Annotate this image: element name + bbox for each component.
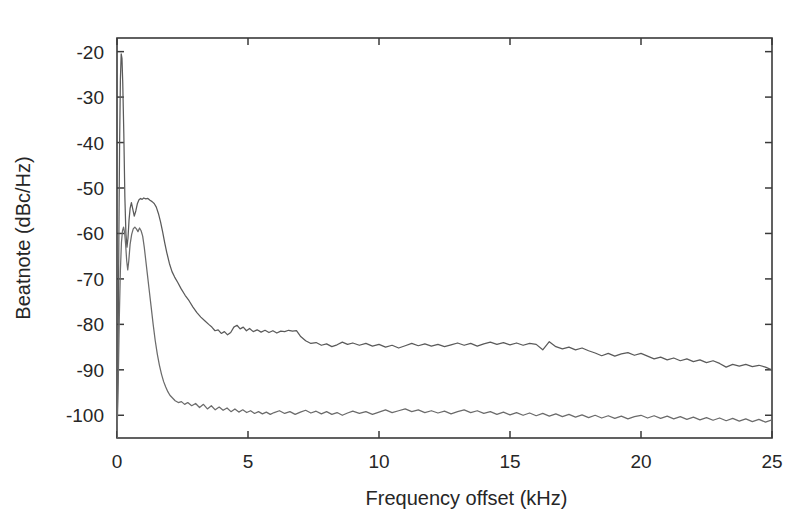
phase-noise-chart-figure: 0510152025-20-30-40-50-60-70-80-90-100Fr… xyxy=(0,0,802,526)
x-tick-label: 20 xyxy=(630,451,651,472)
y-tick-label: -90 xyxy=(77,360,104,381)
y-tick-label: -60 xyxy=(77,223,104,244)
x-tick-label: 0 xyxy=(112,451,123,472)
x-tick-label: 25 xyxy=(761,451,782,472)
x-tick-label: 5 xyxy=(243,451,254,472)
y-tick-label: -70 xyxy=(77,269,104,290)
y-tick-label: -100 xyxy=(66,405,104,426)
plot-background xyxy=(117,38,772,438)
y-tick-label: -30 xyxy=(77,87,104,108)
x-axis-title: Frequency offset (kHz) xyxy=(366,487,568,509)
x-tick-labels: 0510152025 xyxy=(112,451,783,472)
y-tick-labels: -20-30-40-50-60-70-80-90-100 xyxy=(66,42,104,427)
y-tick-label: -50 xyxy=(77,178,104,199)
y-tick-label: -40 xyxy=(77,133,104,154)
x-tick-label: 10 xyxy=(368,451,389,472)
y-tick-label: -80 xyxy=(77,314,104,335)
x-tick-label: 15 xyxy=(499,451,520,472)
y-tick-label: -20 xyxy=(77,42,104,63)
chart-canvas: 0510152025-20-30-40-50-60-70-80-90-100Fr… xyxy=(0,0,802,526)
y-axis-title: Beatnote (dBc/Hz) xyxy=(12,156,34,319)
